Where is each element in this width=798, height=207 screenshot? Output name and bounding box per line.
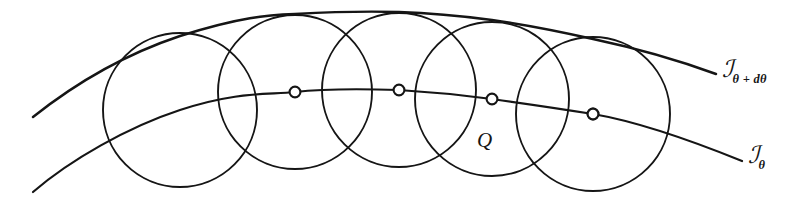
- upper-envelope-curve: [33, 12, 716, 117]
- center-marker-1: [290, 87, 301, 98]
- script-s-subscript-upper: θ + dθ: [733, 72, 767, 86]
- figure-canvas: [0, 0, 798, 207]
- center-marker-5: [588, 109, 599, 120]
- circle-group: [103, 13, 670, 191]
- geometric-figure: ℐθ + dθ ℐθ Q: [0, 0, 798, 207]
- lower-curve-label: ℐθ: [748, 143, 767, 167]
- script-s-subscript-lower: θ: [759, 158, 766, 172]
- point-label-q: Q: [477, 130, 492, 151]
- center-marker-3: [487, 94, 498, 105]
- lower-center-curve: [33, 89, 742, 192]
- center-marker-2: [394, 85, 405, 96]
- upper-curve-label: ℐθ + dθ: [722, 57, 769, 81]
